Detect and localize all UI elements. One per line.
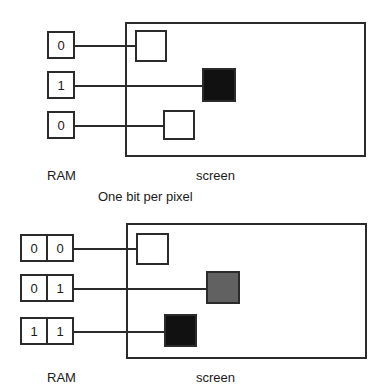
ram-bit: 0 [22, 236, 46, 260]
screen-pixel-bottom-2[interactable] [164, 314, 197, 347]
screen-pixel-bottom-0[interactable] [136, 233, 169, 265]
wire-ram2-to-pixel2-top [73, 125, 164, 127]
ram-bit: 0 [49, 113, 73, 137]
screen-label-top: screen [196, 169, 235, 182]
wire-ram0-to-pixel0-bottom [73, 248, 137, 250]
ram-bit: 1 [46, 276, 72, 300]
wire-ram0-to-pixel0-top [73, 45, 136, 47]
ram-label-top: RAM [47, 169, 76, 182]
wire-ram2-to-pixel2-bottom [73, 331, 165, 333]
ram-bit: 1 [49, 73, 73, 97]
ram-bit: 0 [22, 276, 46, 300]
ram-bit: 1 [22, 319, 46, 343]
wire-ram1-to-pixel1-bottom [73, 288, 207, 290]
ram-word-top-2[interactable]: 0 [47, 111, 75, 139]
wire-ram1-to-pixel1-top [73, 85, 203, 87]
ram-word-bottom-1[interactable]: 0 1 [20, 274, 74, 302]
diagram-canvas: 0 1 0 RAM screen One bit per pixel 0 0 0… [0, 0, 384, 384]
ram-label-bottom: RAM [47, 371, 76, 384]
figure-caption: One bit per pixel [98, 190, 193, 203]
ram-bit: 1 [46, 319, 72, 343]
screen-pixel-top-1[interactable] [202, 68, 236, 102]
ram-word-bottom-0[interactable]: 0 0 [20, 234, 74, 262]
screen-pixel-bottom-1[interactable] [206, 271, 240, 304]
ram-word-top-1[interactable]: 1 [47, 71, 75, 99]
screen-pixel-top-2[interactable] [163, 110, 195, 140]
ram-bit: 0 [49, 33, 73, 57]
ram-bit: 0 [46, 236, 72, 260]
ram-word-top-0[interactable]: 0 [47, 31, 75, 59]
screen-pixel-top-0[interactable] [135, 30, 167, 62]
screen-label-bottom: screen [196, 371, 235, 384]
ram-word-bottom-2[interactable]: 1 1 [20, 317, 74, 345]
